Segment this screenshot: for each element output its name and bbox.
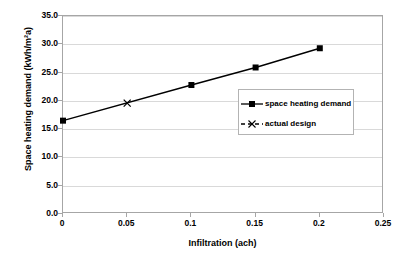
legend-item-label: space heating demand — [265, 100, 351, 108]
y-axis-tick-mark — [58, 156, 62, 157]
legend-item-label: actual design — [265, 120, 316, 128]
y-axis-tick-mark — [58, 72, 62, 73]
y-axis-tick-mark — [58, 128, 62, 129]
x-axis-title: Infiltration (ach) — [62, 238, 383, 248]
chart-legend: space heating demandactual design — [238, 89, 354, 135]
y-axis-tick-mark — [58, 15, 62, 16]
x-axis-tick-mark — [255, 213, 256, 217]
data-point-square — [60, 118, 66, 124]
x-axis-tick-label: 0.2 — [299, 219, 339, 228]
x-axis-tick-label: 0.25 — [363, 219, 403, 228]
x-axis-tick-labels: 00.050.10.150.20.25 — [62, 219, 383, 233]
y-axis-tick-mark — [58, 43, 62, 44]
chart-container: 0.05.010.015.020.025.030.035.0 Space hea… — [0, 0, 405, 263]
data-point-square — [188, 82, 194, 88]
x-axis-tick-label: 0 — [42, 219, 82, 228]
x-axis-tick-mark — [190, 213, 191, 217]
y-axis-tick-label: 0.0 — [2, 209, 58, 218]
x-axis-tick-label: 0.1 — [170, 219, 210, 228]
x-axis-tick-label: 0.15 — [235, 219, 275, 228]
x-axis-tick-mark — [62, 213, 63, 217]
legend-item: space heating demand — [239, 95, 353, 113]
y-axis-tick-mark — [58, 100, 62, 101]
legend-marker-x-icon — [239, 117, 265, 131]
x-axis-tick-mark — [383, 213, 384, 217]
legend-item: actual design — [239, 115, 353, 133]
legend-marker-square-icon — [239, 97, 265, 111]
x-axis-tick-label: 0.05 — [106, 219, 146, 228]
data-point-square — [317, 45, 323, 51]
x-axis-tick-mark — [126, 213, 127, 217]
data-point-square — [253, 64, 259, 70]
y-axis-tick-mark — [58, 185, 62, 186]
y-axis-title: Space heating demand (kWh/m²a) — [23, 0, 33, 199]
x-axis-tick-mark — [319, 213, 320, 217]
